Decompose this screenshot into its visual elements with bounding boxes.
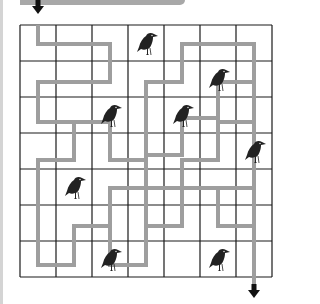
- crow-icon: [96, 100, 126, 130]
- finish-arrow-shaft: [252, 284, 257, 291]
- crow-icon: [204, 64, 234, 94]
- crow-icon: [168, 100, 198, 130]
- crow-icon: [60, 172, 90, 202]
- crow-icon: [204, 244, 234, 274]
- crow-icon: [132, 28, 162, 58]
- start-arrow-icon: [32, 6, 44, 14]
- start-arrow-shaft: [36, 0, 41, 7]
- finish-arrow-icon: [248, 290, 260, 298]
- crow-icon: [96, 244, 126, 274]
- crow-icon: [240, 136, 270, 166]
